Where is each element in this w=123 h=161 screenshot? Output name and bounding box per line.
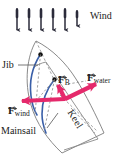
f-water-letter: F bbox=[87, 71, 94, 83]
wind-arrow-fletching bbox=[17, 10, 77, 17]
mainsail-label: Mainsail bbox=[1, 126, 36, 136]
mainsail-leader bbox=[47, 113, 58, 128]
force-vectors bbox=[22, 84, 96, 101]
jib-label: Jib bbox=[2, 60, 14, 70]
f-b-letter: F bbox=[58, 73, 65, 85]
vector-label-f-wind: Fwind bbox=[8, 101, 30, 118]
f-water-symbol: F bbox=[87, 72, 94, 83]
sailboat-force-diagram: Wind Jib Mainsail Keel FB Fwater Fwind bbox=[0, 0, 123, 161]
force-origin-point bbox=[63, 97, 66, 100]
f-wind-letter: F bbox=[8, 104, 15, 116]
f-b-subscript: B bbox=[65, 78, 70, 87]
jib-sail bbox=[30, 55, 40, 115]
f-water-subscript: water bbox=[94, 76, 111, 85]
sails bbox=[30, 52, 56, 133]
f-wind-subscript: wind bbox=[15, 109, 30, 118]
mainsail-sail bbox=[42, 80, 54, 133]
label-leaders bbox=[18, 65, 58, 128]
vector-label-f-b: FB bbox=[58, 70, 70, 87]
f-b-symbol: F bbox=[58, 74, 65, 85]
vector-label-f-water: Fwater bbox=[87, 68, 110, 85]
wind-label: Wind bbox=[90, 11, 112, 21]
f-wind-symbol: F bbox=[8, 105, 15, 116]
wind-arrow-group bbox=[17, 8, 77, 30]
